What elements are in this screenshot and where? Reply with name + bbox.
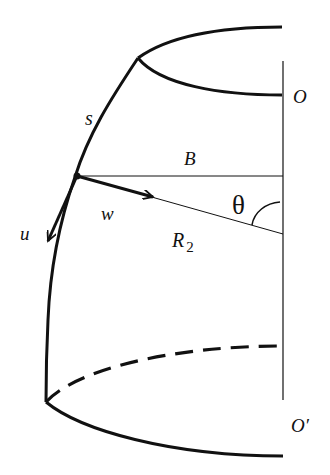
- label-r-subscript: 2: [186, 239, 194, 255]
- label-theta: θ: [232, 190, 245, 220]
- label-b: B: [184, 148, 196, 169]
- top-edge-front: [138, 58, 282, 95]
- bottom-edge-front: [46, 402, 283, 456]
- top-edge-back: [138, 27, 282, 58]
- shell-point: [74, 173, 81, 180]
- theta-arc: [252, 202, 280, 225]
- label-o-prime: O′: [291, 415, 310, 436]
- bottom-edge-back-dashed: [46, 346, 283, 402]
- label-o: O: [293, 86, 307, 107]
- label-r2: R2: [171, 229, 194, 255]
- label-s: s: [85, 107, 93, 129]
- shell-diagram: s O B θ w u R2 O′: [0, 0, 330, 475]
- label-r: R: [171, 229, 184, 251]
- label-w: w: [101, 203, 114, 224]
- w-arrow: [77, 176, 153, 197]
- u-arrow: [48, 178, 76, 241]
- label-u: u: [20, 223, 30, 244]
